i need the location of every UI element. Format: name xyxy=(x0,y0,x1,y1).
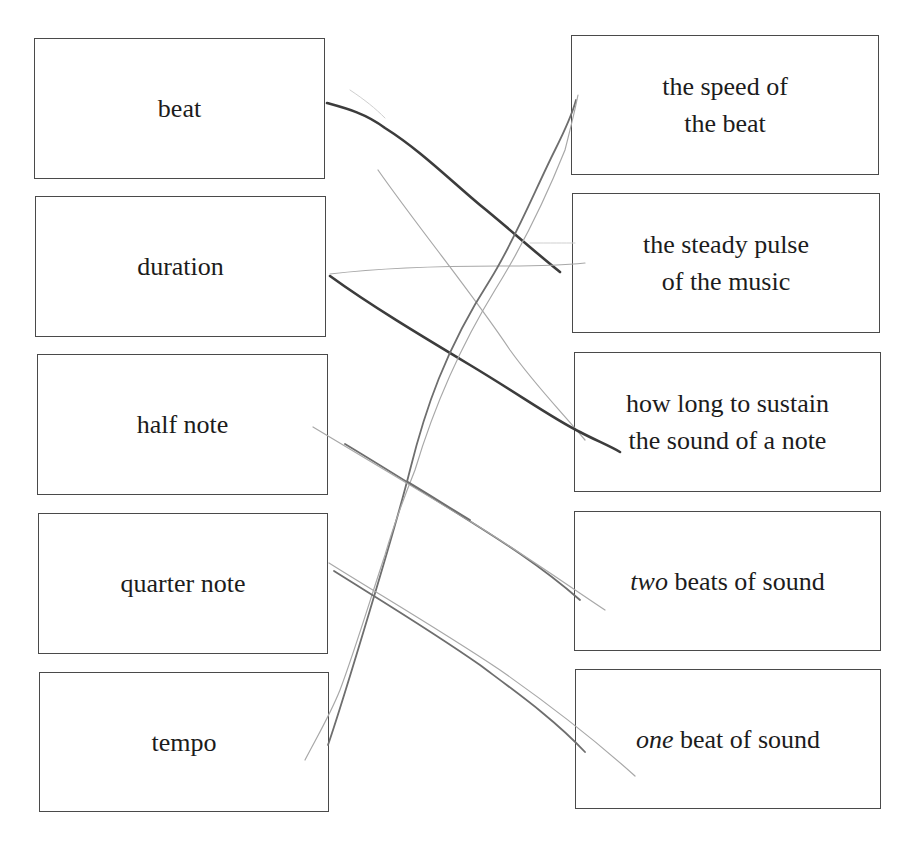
term-box-beat[interactable]: beat xyxy=(34,38,325,179)
definition-line-1: the speed of xyxy=(662,72,788,101)
definition-line-2: the beat xyxy=(684,109,766,138)
definition-text: the steady pulse of the music xyxy=(643,226,809,300)
definition-line-2: the sound of a note xyxy=(629,426,827,455)
definition-text: two beats of sound xyxy=(630,563,824,600)
match-line-half-note-retrace xyxy=(313,427,605,610)
term-label: tempo xyxy=(152,724,217,761)
definition-line-1: how long to sustain xyxy=(626,389,829,418)
definition-line-2: of the music xyxy=(662,267,791,296)
definition-text: how long to sustain the sound of a note xyxy=(626,385,829,459)
match-line-quarter-note[interactable] xyxy=(334,571,585,752)
definition-line-1: the steady pulse xyxy=(643,230,809,259)
definition-emphasis: two xyxy=(630,567,668,596)
definition-text: one beat of sound xyxy=(636,721,820,758)
term-box-quarter-note[interactable]: quarter note xyxy=(38,513,328,654)
term-label: beat xyxy=(158,90,201,127)
stray-pencil-mark xyxy=(350,90,385,118)
term-box-half-note[interactable]: half note xyxy=(37,354,328,495)
definition-box-speed-of-beat[interactable]: the speed of the beat xyxy=(571,35,879,175)
definition-text: the speed of the beat xyxy=(662,68,788,142)
definition-rest: beat of sound xyxy=(673,725,820,754)
definition-rest: beats of sound xyxy=(668,567,825,596)
term-label: duration xyxy=(137,248,224,285)
term-label: half note xyxy=(137,406,229,443)
stray-pencil-mark xyxy=(408,482,470,520)
match-line-half-note[interactable] xyxy=(345,444,580,600)
definition-box-one-beat[interactable]: one beat of sound xyxy=(575,669,881,809)
term-box-tempo[interactable]: tempo xyxy=(39,672,329,812)
definition-box-sustain-duration[interactable]: how long to sustain the sound of a note xyxy=(574,352,881,492)
definition-emphasis: one xyxy=(636,725,674,754)
definition-box-two-beats[interactable]: two beats of sound xyxy=(574,511,881,651)
stray-pencil-mark xyxy=(378,170,585,440)
term-box-duration[interactable]: duration xyxy=(35,196,326,337)
term-label: quarter note xyxy=(121,565,246,602)
match-line-tempo[interactable] xyxy=(328,100,576,745)
match-line-beat[interactable] xyxy=(327,103,560,272)
matching-worksheet: beat duration half note quarter note tem… xyxy=(0,0,915,852)
match-line-tempo-retrace xyxy=(305,95,578,760)
stray-pencil-mark xyxy=(330,263,585,274)
definition-box-steady-pulse[interactable]: the steady pulse of the music xyxy=(572,193,880,333)
